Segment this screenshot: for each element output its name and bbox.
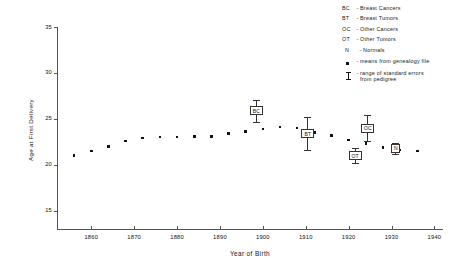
y-tick-mark [54,119,58,120]
data-point [365,142,368,145]
error-bar-cap-lower [392,154,399,155]
error-bar-cap-lower [352,163,359,164]
y-tick-mark [54,73,58,74]
filled-square-marker-icon [342,59,355,68]
x-tick-mark [91,226,92,230]
legend-label-bc: Breast Cancers [360,6,468,12]
x-tick-mark [349,226,350,230]
legend-label-means: means from genealogy file [360,59,468,65]
data-point [141,137,144,140]
x-tick-label: 1920 [339,234,359,240]
scatter-chart-figure: BC - Breast Cancers BT - Breast Tumors O… [0,0,470,272]
data-point [73,154,76,157]
legend-key-n: N [342,48,358,54]
error-bar-cap-lower [304,150,311,151]
x-tick-label: 1930 [382,234,402,240]
legend-item-means: - means from genealogy file [342,59,468,69]
data-point [227,132,230,135]
data-point [159,136,162,139]
x-tick-mark [263,226,264,230]
error-bar-cap-upper [253,100,260,101]
error-bar-cap-lower [253,122,260,123]
legend-item-n: N - Normals [342,48,468,58]
group-label-box-oc: OC [361,124,374,133]
y-axis-title: Age at First Delivery [27,99,34,161]
data-point [347,139,350,142]
x-tick-mark [177,226,178,230]
x-axis-title: Year of Birth [190,250,310,257]
x-tick-label: 1900 [253,234,273,240]
group-label-box-ot: OT [349,151,362,160]
legend-label-range: range of standard errors from pedigree [360,71,468,82]
data-point [210,135,213,138]
x-tick-label: 1870 [124,234,144,240]
y-tick-label: 20 [41,161,52,167]
data-point [279,126,282,129]
legend-key-ot: OT [342,37,355,43]
y-axis-line [57,27,58,229]
x-tick-mark [306,226,307,230]
legend-label-bt: Breast Tumors [360,16,468,22]
data-point [330,134,333,137]
data-point [296,127,299,130]
legend-key-oc: OC [342,27,355,33]
x-axis-line [57,229,443,230]
data-point [124,140,127,143]
legend-label-oc: Other Cancers [360,27,468,33]
y-tick-mark [54,211,58,212]
legend-label-ot: Other Tumors [360,37,468,43]
data-point [416,150,419,153]
error-bar-cap-lower [364,141,371,142]
data-point [193,135,196,138]
data-point [382,146,385,149]
x-tick-label: 1910 [296,234,316,240]
y-tick-label: 25 [41,115,52,121]
y-tick-label: 30 [41,69,52,75]
x-tick-label: 1860 [81,234,101,240]
x-tick-mark [134,226,135,230]
y-tick-mark [54,165,58,166]
x-tick-mark [392,226,393,230]
group-label-box-n: N [391,144,400,153]
x-tick-mark [220,226,221,230]
chart-legend: BC - Breast Cancers BT - Breast Tumors O… [342,6,468,87]
y-tick-mark [54,27,58,28]
legend-item-range: - range of standard errors from pedigree [342,71,468,87]
data-point [90,150,93,153]
y-tick-label: 35 [41,24,52,30]
legend-key-bt: BT [342,16,355,22]
error-bar-marker-icon [342,71,355,80]
x-tick-label: 1890 [210,234,230,240]
error-bar-cap-upper [352,148,359,149]
data-point [176,136,179,139]
data-point [262,128,265,131]
error-bar-cap-upper [364,115,371,116]
data-point [244,130,247,133]
data-point [107,145,110,148]
legend-label-n: Normals [363,48,468,54]
error-bar-cap-upper [304,117,311,118]
legend-key-bc: BC [342,6,355,12]
x-tick-label: 1940 [424,234,444,240]
x-tick-label: 1880 [167,234,187,240]
y-tick-label: 15 [41,207,52,213]
group-label-box-bc: BC [250,106,263,115]
group-label-box-bt: BT [301,129,314,138]
x-tick-mark [434,226,435,230]
legend-item-ot: OT - Other Tumors [342,37,468,47]
